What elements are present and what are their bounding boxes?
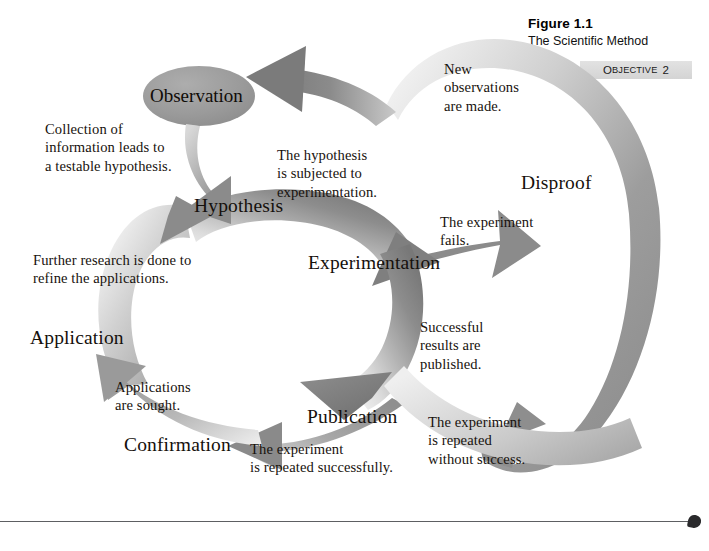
caption-collection: Collection of information leads to a tes… bbox=[45, 120, 172, 175]
node-label-experimentation: Experimentation bbox=[308, 252, 440, 274]
node-label-disproof: Disproof bbox=[521, 172, 592, 194]
figure-canvas: Figure 1.1 The Scientific Method OBJECTI… bbox=[0, 0, 709, 551]
observation-arrowhead bbox=[246, 46, 306, 112]
caption-successful-results: Successful results are published. bbox=[420, 318, 483, 373]
caption-repeated-successfully: The experiment is repeated successfully. bbox=[250, 440, 393, 477]
node-label-observation: Observation bbox=[150, 85, 243, 107]
caption-applications-sought: Applications are sought. bbox=[115, 378, 191, 415]
node-label-confirmation: Confirmation bbox=[124, 434, 231, 456]
node-label-hypothesis: Hypothesis bbox=[194, 195, 283, 217]
node-label-publication: Publication bbox=[307, 406, 397, 428]
footer-divider bbox=[0, 521, 690, 522]
arrow-new-observations bbox=[246, 46, 396, 126]
caption-experiment-fails: The experiment fails. bbox=[440, 213, 533, 250]
caption-subjected: The hypothesis is subjected to experimen… bbox=[277, 146, 377, 201]
caption-further-research: Further research is done to refine the a… bbox=[33, 251, 191, 288]
caption-new-observations: New observations are made. bbox=[444, 60, 519, 115]
node-label-application: Application bbox=[30, 327, 124, 349]
caption-repeated-without-success: The experiment is repeated without succe… bbox=[428, 413, 525, 468]
